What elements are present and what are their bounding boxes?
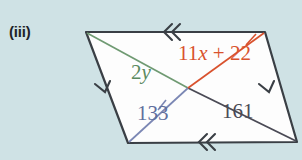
label-2y-variable: y	[140, 60, 152, 84]
label-133: 133	[137, 101, 169, 125]
label-11x-constant: + 22	[208, 41, 251, 65]
label-2y: 2y	[131, 60, 152, 84]
label-2y-coefficient: 2	[131, 60, 142, 84]
label-11x-coefficient: 11	[178, 41, 198, 65]
label-11x-plus-22: 11x + 22	[178, 41, 251, 65]
label-161: 161	[222, 99, 254, 123]
parallelogram-diagram: 2y 11x + 22 133 161	[0, 0, 302, 160]
